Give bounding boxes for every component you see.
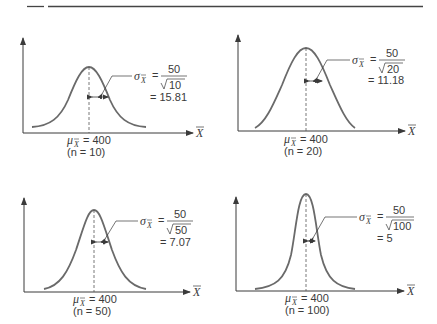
panel-n50: σ X = 50 50 = 7.07 X μ X = 400 (n = 50) xyxy=(24,198,201,317)
svg-text:X: X xyxy=(358,60,365,69)
svg-text:μ: μ xyxy=(284,291,291,305)
sample-size: (n = 50) xyxy=(73,305,111,317)
numerator: 50 xyxy=(393,204,405,216)
x-axis-label: X xyxy=(195,126,204,140)
mean-value: = 400 xyxy=(300,133,328,145)
panel-n20: σ X = 50 20 = 11.18 X μ X = 400 (n = 20) xyxy=(238,35,416,157)
sample-size: (n = 10) xyxy=(67,146,105,158)
svg-text:X: X xyxy=(192,285,201,299)
svg-text:X: X xyxy=(146,221,153,230)
distribution-curve xyxy=(44,210,146,289)
svg-text:=: = xyxy=(152,69,158,81)
numerator: 50 xyxy=(174,208,186,220)
sigma-result: = 15.81 xyxy=(150,91,187,103)
svg-text:=: = xyxy=(158,214,164,226)
mean-value: = 400 xyxy=(83,134,111,146)
leader-line xyxy=(317,60,350,78)
sigma-result: = 7.07 xyxy=(160,236,191,248)
svg-text:σ: σ xyxy=(352,53,359,67)
denominator: 10 xyxy=(169,79,181,91)
denominator: 100 xyxy=(393,220,411,232)
svg-text:X: X xyxy=(365,217,372,226)
svg-text:μ: μ xyxy=(72,292,79,306)
numerator: 50 xyxy=(168,63,180,75)
sigma-result: = 11.18 xyxy=(368,74,404,86)
svg-text:X: X xyxy=(406,284,415,298)
svg-text:X: X xyxy=(407,124,416,138)
denominator: 50 xyxy=(175,224,187,236)
numerator: 50 xyxy=(386,47,398,59)
sample-size: (n = 100) xyxy=(285,304,329,316)
sigma-subscript: X xyxy=(140,76,147,85)
sigma-symbol: σ xyxy=(134,69,141,83)
svg-text:σ: σ xyxy=(140,214,147,228)
svg-text:=: = xyxy=(370,53,376,65)
svg-text:σ: σ xyxy=(359,210,366,224)
leader-line xyxy=(105,221,138,239)
sample-size: (n = 20) xyxy=(284,145,322,157)
panel-n10: σ X = 50 10 = 15.81 X μ X = 400 (n = 10) xyxy=(23,38,204,158)
sigma-result: = 5 xyxy=(377,232,393,244)
distribution-curve xyxy=(255,194,355,289)
mu-symbol: μ xyxy=(66,133,73,147)
sampling-distribution-figure: σ X = 50 10 = 15.81 X μ X = 400 (n = 10)… xyxy=(0,0,437,324)
svg-text:=: = xyxy=(377,210,383,222)
panel-n100: σ X = 50 100 = 5 X μ X = 400 (n = 100) xyxy=(236,194,415,316)
svg-text:μ: μ xyxy=(283,132,290,146)
leader-line xyxy=(313,217,357,238)
mean-value: = 400 xyxy=(301,292,329,304)
mean-value: = 400 xyxy=(89,293,117,305)
